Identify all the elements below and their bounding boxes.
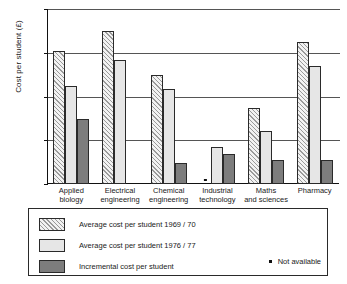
bar-avg1976[interactable] [65, 86, 77, 184]
y-axis-title: Cost per student (£) [14, 0, 23, 127]
x-axis-label-line: technology [193, 195, 242, 204]
x-axis-label-line: Maths [242, 186, 291, 195]
bar-group [290, 9, 339, 184]
x-axis-label-line: Pharmacy [290, 186, 339, 195]
y-tick-mark-0 [44, 184, 48, 185]
legend-item[interactable]: Average cost per student 1969 / 70 [39, 216, 196, 233]
not-available-note: Not available [269, 257, 321, 266]
bar-group [144, 9, 193, 184]
bar-incremental[interactable] [272, 160, 284, 185]
legend-label: Incremental cost per student [79, 262, 174, 271]
x-axis-label-line: biology [47, 195, 96, 204]
x-axis-labels: AppliedbiologyElectricalengineeringChemi… [47, 186, 339, 204]
bar-groups [47, 9, 339, 184]
bar-avg1969[interactable] [53, 51, 65, 184]
bar-avg1976[interactable] [114, 60, 126, 184]
x-axis-label-line: Electrical [96, 186, 145, 195]
x-axis-label-line: engineering [96, 195, 145, 204]
legend-item[interactable]: Average cost per student 1976 / 77 [39, 237, 196, 254]
x-axis-label: Mathsand sciences [242, 186, 291, 204]
x-axis-label: Pharmacy [290, 186, 339, 204]
x-axis-label: Industrialtechnology [193, 186, 242, 204]
bar-group [96, 9, 145, 184]
legend-swatch [39, 218, 65, 231]
legend-swatch [39, 260, 65, 273]
bar-avg1976[interactable] [211, 147, 223, 184]
not-available-label: Not available [278, 257, 321, 266]
bar-chart-figure: Cost per student (£) 01000200030004000 A… [0, 0, 347, 284]
bar-avg1969[interactable] [248, 108, 260, 184]
x-axis-label-line: Applied [47, 186, 96, 195]
legend-item[interactable]: Incremental cost per student [39, 258, 174, 275]
bar-avg1969[interactable] [151, 75, 163, 184]
bar-incremental[interactable] [175, 163, 187, 184]
bar-avg1969[interactable] [102, 31, 114, 184]
x-axis-label-line: engineering [144, 195, 193, 204]
bar-avg1976[interactable] [260, 131, 272, 184]
legend-swatch [39, 239, 65, 252]
plot-area: Cost per student (£) 01000200030004000 A… [0, 0, 347, 200]
x-axis-label-line: Industrial [193, 186, 242, 195]
bar-incremental[interactable] [223, 154, 235, 184]
bar-avg1969[interactable] [297, 42, 309, 184]
x-axis-label-line: and sciences [242, 195, 291, 204]
bar-not-available[interactable] [199, 9, 211, 184]
legend-box: Not available Average cost per student 1… [28, 208, 328, 276]
legend-label: Average cost per student 1976 / 77 [79, 241, 196, 250]
bar-group [193, 9, 242, 184]
bar-group [47, 9, 96, 184]
bar-avg1976[interactable] [309, 66, 321, 184]
bar-avg1976[interactable] [163, 89, 175, 184]
bar-group [242, 9, 291, 184]
bar-incremental[interactable] [77, 119, 89, 184]
legend-label: Average cost per student 1969 / 70 [79, 220, 196, 229]
x-axis-label: Chemicalengineering [144, 186, 193, 204]
x-axis-label: Electricalengineering [96, 186, 145, 204]
bar-incremental[interactable] [321, 160, 333, 185]
dot-icon [269, 260, 271, 262]
x-axis-label-line: Chemical [144, 186, 193, 195]
x-axis-label: Appliedbiology [47, 186, 96, 204]
